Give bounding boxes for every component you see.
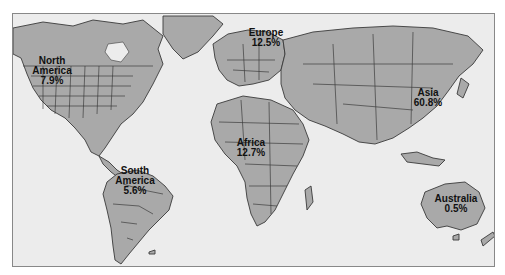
madagascar-shape (305, 186, 313, 210)
label-europe: Europe 12.5% (241, 28, 291, 48)
africa-shape (211, 96, 309, 226)
north-america-shape (13, 20, 163, 156)
southeast-asia-islands (401, 152, 445, 166)
asia-shape (281, 26, 483, 144)
japan-shape (457, 78, 469, 98)
label-north-america: North America 7.9% (23, 56, 81, 86)
label-south-america: South America 5.6% (105, 166, 165, 196)
label-africa: Africa 12.7% (223, 138, 279, 158)
label-asia: Asia 60.8% (398, 88, 458, 108)
label-australia: Australia 0.5% (425, 194, 487, 214)
tasmania-shape (453, 234, 459, 240)
new-zealand-shape (481, 232, 495, 246)
antarctic-islands (149, 250, 155, 254)
world-map: North America 7.9% Europe 12.5% Asia 60.… (12, 13, 495, 267)
